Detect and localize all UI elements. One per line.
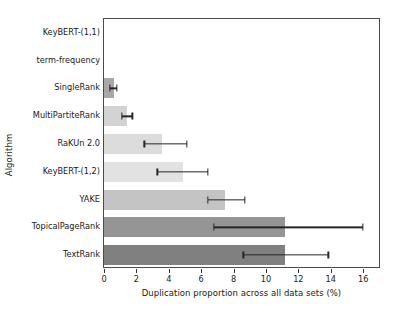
x-axis-tick-label: 12 bbox=[293, 274, 303, 284]
error-bar-cap bbox=[207, 168, 208, 175]
error-bar-cap bbox=[186, 141, 187, 148]
error-bar-line bbox=[208, 199, 245, 200]
error-bar-line bbox=[144, 143, 186, 144]
y-axis-tick-label: KeyBERT-(1,2) bbox=[12, 166, 100, 175]
chart-figure: Algorithm KeyBERT-(1,1)term-frequencySin… bbox=[0, 0, 399, 310]
x-axis-tick-mark bbox=[136, 269, 137, 273]
error-bar-cap bbox=[116, 85, 117, 92]
error-bar-cap bbox=[213, 224, 214, 231]
error-bar-cap bbox=[144, 141, 145, 148]
x-axis-tick-label: 8 bbox=[231, 274, 236, 284]
y-axis-tick-label: YAKE bbox=[12, 194, 100, 203]
x-axis-tick-mark bbox=[234, 269, 235, 273]
error-bar-cap bbox=[243, 252, 244, 259]
error-bar-cap bbox=[132, 113, 133, 120]
error-bar-cap bbox=[207, 196, 208, 203]
error-bar-cap bbox=[244, 196, 245, 203]
error-bar-line bbox=[157, 171, 207, 172]
error-bar-cap bbox=[121, 113, 122, 120]
x-axis-tick-mark bbox=[169, 269, 170, 273]
y-axis-tick-label: term-frequency bbox=[12, 55, 100, 64]
x-axis-tick-label: 4 bbox=[166, 274, 171, 284]
x-axis-tick-mark bbox=[266, 269, 267, 273]
x-axis-tick-mark bbox=[363, 269, 364, 273]
y-axis-tick-label: SingleRank bbox=[12, 83, 100, 92]
error-bar-cap bbox=[157, 168, 158, 175]
y-axis-tick-label: KeyBERT-(1,1) bbox=[12, 27, 100, 36]
x-axis-tick-label: 2 bbox=[134, 274, 139, 284]
plot-area: 0246810121416 bbox=[103, 18, 380, 268]
y-axis-tick-label: TopicalPageRank bbox=[12, 222, 100, 231]
y-axis-tick-label: RaKUn 2.0 bbox=[12, 139, 100, 148]
x-axis-tick-label: 0 bbox=[101, 274, 106, 284]
x-axis-tick-mark bbox=[298, 269, 299, 273]
error-bar-cap bbox=[109, 85, 110, 92]
y-axis-tick-label: TextRank bbox=[12, 250, 100, 259]
x-axis-tick-mark bbox=[331, 269, 332, 273]
y-axis-tick-labels: KeyBERT-(1,1)term-frequencySingleRankMul… bbox=[12, 18, 100, 268]
error-bar-cap bbox=[363, 224, 364, 231]
x-axis-tick-label: 16 bbox=[358, 274, 368, 284]
y-axis-tick-label: MultiPartiteRank bbox=[12, 111, 100, 120]
x-axis-tick-label: 14 bbox=[326, 274, 336, 284]
x-axis-tick-label: 6 bbox=[199, 274, 204, 284]
x-axis-tick-mark bbox=[201, 269, 202, 273]
x-axis-tick-mark bbox=[104, 269, 105, 273]
error-bar-cap bbox=[328, 252, 329, 259]
x-axis-title: Duplication proportion across all data s… bbox=[103, 288, 380, 298]
x-axis-tick-label: 10 bbox=[261, 274, 271, 284]
error-bar-line bbox=[214, 227, 363, 228]
error-bar-line bbox=[243, 254, 328, 255]
